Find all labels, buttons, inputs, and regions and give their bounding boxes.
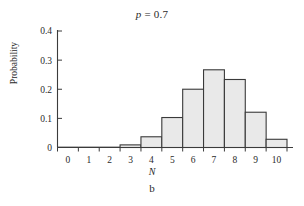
bars-group (58, 70, 288, 148)
x-tick-label-10: 10 (272, 155, 282, 165)
panel-caption: b (0, 182, 304, 194)
x-tick-label-1: 1 (86, 155, 91, 165)
x-tick-label-2: 2 (107, 155, 112, 165)
bar-4 (141, 137, 162, 148)
y-tick-label-0.1: 0.1 (40, 114, 52, 124)
y-tick-label-0.2: 0.2 (40, 85, 52, 95)
x-tick-label-8: 8 (232, 155, 237, 165)
x-tick-label-5: 5 (170, 155, 175, 165)
x-tick-label-7: 7 (212, 155, 217, 165)
bar-7 (204, 70, 225, 148)
y-tick-label-0: 0 (47, 143, 52, 153)
x-tick-label-4: 4 (149, 155, 154, 165)
y-tick-label-0.3: 0.3 (40, 56, 52, 66)
bar-9 (245, 112, 266, 147)
x-tick-label-3: 3 (128, 155, 133, 165)
bar-6 (183, 89, 204, 147)
bar-5 (162, 118, 183, 148)
x-axis-ticks: 012345678910 (58, 148, 288, 165)
x-tick-label-0: 0 (66, 155, 71, 165)
x-tick-label-9: 9 (253, 155, 258, 165)
x-axis-label: N (0, 166, 304, 177)
figure-panel-b: p = 0.7 Probability 00.10.20.30.4 012345… (0, 0, 304, 206)
x-tick-label-6: 6 (191, 155, 196, 165)
bar-10 (266, 139, 287, 147)
bar-8 (224, 79, 245, 147)
y-tick-label-0.4: 0.4 (40, 26, 52, 36)
y-axis-ticks: 00.10.20.30.4 (40, 26, 62, 152)
